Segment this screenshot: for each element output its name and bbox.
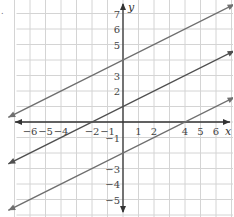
- coordinate-plane: . −6−5−4−2−11245676532−1−3−4−5 x y: [0, 0, 233, 217]
- line-series: [8, 97, 233, 210]
- x-tick-label: 1: [135, 126, 141, 137]
- x-tick-label: 2: [151, 126, 157, 137]
- x-tick-label: 4: [182, 126, 188, 137]
- x-tick-label: −5: [38, 126, 53, 137]
- line-series: [8, 51, 233, 164]
- y-tick-label: 6: [114, 24, 120, 35]
- x-tick-label: −2: [85, 126, 100, 137]
- x-tick-label: −6: [23, 126, 38, 137]
- figure-marker: .: [1, 7, 4, 16]
- y-tick-label: −5: [105, 195, 120, 206]
- y-tick-label: −1: [105, 133, 120, 144]
- y-axis-arrow-down-icon: [120, 206, 126, 213]
- y-axis-label: y: [127, 1, 135, 14]
- x-tick-label: −4: [54, 126, 69, 137]
- x-tick-label: 6: [213, 126, 219, 137]
- x-axis-label: x: [225, 125, 232, 138]
- y-tick-label: 3: [114, 71, 120, 82]
- x-axis-arrow-left-icon: [15, 119, 22, 125]
- axes: [15, 3, 230, 213]
- y-tick-label: 2: [114, 86, 120, 97]
- y-tick-label: 5: [114, 40, 120, 51]
- x-tick-label: 5: [197, 126, 203, 137]
- y-tick-label: −3: [105, 164, 120, 175]
- plotted-lines: [8, 4, 233, 210]
- grid: [15, 0, 234, 217]
- y-tick-label: 7: [114, 9, 120, 20]
- line-series: [8, 4, 233, 117]
- y-tick-label: −4: [105, 179, 120, 190]
- y-axis-arrow-up-icon: [120, 3, 126, 10]
